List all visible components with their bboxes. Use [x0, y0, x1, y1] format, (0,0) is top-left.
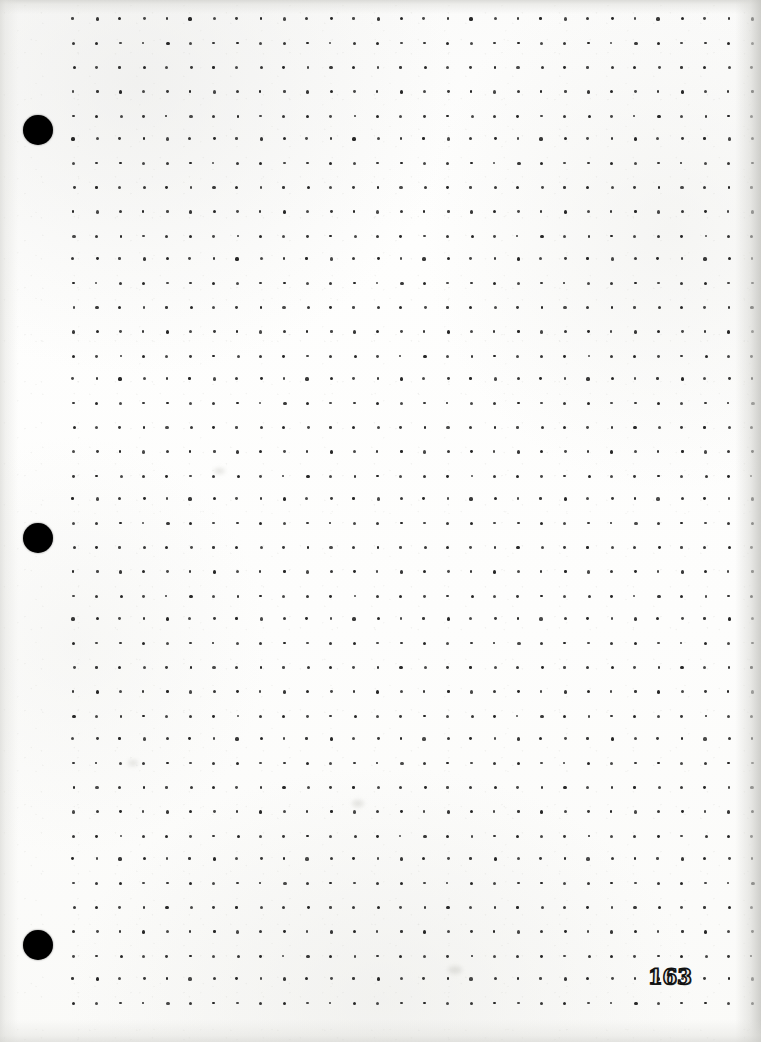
grid-dot [470, 1002, 473, 1005]
grid-dot [634, 737, 637, 740]
grid-dot [119, 162, 122, 165]
grid-dot [516, 666, 519, 669]
grid-dot [634, 617, 637, 620]
grid-dot [189, 930, 192, 933]
grid-dot [423, 522, 426, 525]
grid-dot [517, 810, 520, 813]
grid-dot [166, 977, 169, 980]
grid-dot [212, 66, 215, 69]
grid-dot [422, 977, 425, 980]
grid-dot [517, 690, 520, 693]
grid-dot [329, 762, 332, 765]
grid-dot [540, 475, 543, 478]
grid-dot [212, 666, 215, 669]
grid-dot [400, 162, 403, 165]
grid-dot [189, 1002, 192, 1005]
grid-dot [376, 595, 379, 598]
grid-dot [680, 955, 683, 958]
grid-dot [399, 955, 402, 958]
grid-dot [142, 522, 145, 525]
grid-dot [422, 377, 425, 380]
grid-dot [446, 786, 449, 789]
grid-dot [329, 715, 332, 718]
grid-dot [353, 570, 356, 573]
grid-dot [189, 715, 192, 718]
grid-dot [446, 306, 449, 309]
grid-dot [120, 595, 123, 598]
grid-dot [446, 42, 449, 45]
grid-dot [703, 737, 706, 740]
grid-dot [705, 955, 708, 958]
grid-dot [610, 450, 613, 453]
grid-dot [189, 90, 192, 93]
grid-dot [493, 402, 496, 405]
grid-dot [188, 17, 191, 20]
grid-dot [376, 955, 379, 958]
grid-dot [376, 762, 379, 765]
grid-dot [563, 115, 566, 118]
grid-dot [703, 17, 706, 20]
grid-dot [236, 882, 239, 885]
grid-dot [516, 835, 519, 838]
grid-dot [283, 282, 286, 285]
grid-dot [493, 690, 496, 693]
grid-dot [283, 90, 286, 93]
grid-dot [494, 186, 497, 189]
grid-dot [95, 835, 98, 838]
grid-dot [189, 595, 192, 598]
grid-dot [446, 186, 449, 189]
grid-dot [541, 906, 544, 909]
grid-dot [728, 137, 731, 140]
grid-dot [517, 257, 520, 260]
grid-dot [399, 115, 402, 118]
grid-dot [283, 402, 286, 405]
grid-dot [118, 426, 121, 429]
grid-dot [307, 546, 310, 549]
grid-dot [540, 955, 543, 958]
grid-dot [494, 546, 497, 549]
grid-dot [703, 666, 706, 669]
grid-dot [540, 90, 543, 93]
grid-dot [188, 377, 191, 380]
grid-dot [634, 977, 637, 980]
grid-dot [680, 906, 683, 909]
grid-dot [588, 235, 591, 238]
grid-dot [680, 762, 683, 765]
grid-dot [634, 257, 637, 260]
grid-dot [353, 210, 356, 213]
grid-dot [235, 857, 238, 860]
grid-dot [95, 786, 98, 789]
grid-dot [633, 426, 636, 429]
grid-dot [330, 450, 333, 453]
grid-dot [283, 330, 286, 333]
grid-dot [212, 882, 215, 885]
grid-dot [72, 162, 75, 165]
grid-dot [681, 17, 684, 20]
grid-dot [118, 786, 121, 789]
grid-dot [329, 546, 332, 549]
grid-dot [213, 497, 216, 500]
grid-dot [259, 475, 262, 478]
grid-dot [423, 90, 426, 93]
grid-dot [446, 235, 449, 238]
grid-dot [704, 762, 707, 765]
grid-dot [213, 690, 216, 693]
grid-dot [564, 330, 567, 333]
grid-dot [282, 546, 285, 549]
grid-dot [190, 906, 193, 909]
grid-dot [376, 522, 379, 525]
grid-dot [142, 450, 145, 453]
grid-dot [727, 162, 730, 165]
grid-dot [423, 835, 426, 838]
grid-dot [423, 955, 426, 958]
grid-dot [95, 426, 98, 429]
grid-dot [307, 186, 310, 189]
grid-dot [586, 377, 589, 380]
grid-dot [728, 257, 731, 260]
grid-dot [306, 90, 309, 93]
grid-dot [354, 355, 357, 358]
grid-dot [424, 66, 427, 69]
grid-dot [354, 955, 357, 958]
grid-dot [259, 810, 262, 813]
grid-dot [377, 426, 380, 429]
